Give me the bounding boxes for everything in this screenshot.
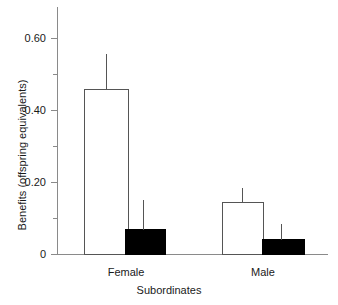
errorbar-male-filled <box>281 224 282 240</box>
y-tick-0.40 <box>51 110 57 111</box>
y-tick-label-0: 0 <box>40 249 46 260</box>
y-tick-0 <box>51 254 57 255</box>
x-category-label-male: Male <box>223 266 303 278</box>
bar-chart-figure: 0.60 0.40 0.20 0 Female Male Subordinate… <box>0 0 338 305</box>
bar-male-filled <box>262 239 305 255</box>
bar-female-filled <box>125 229 166 255</box>
bar-male-open <box>222 202 264 255</box>
y-tick-minor-0.50 <box>53 74 57 75</box>
y-tick-label-0.60: 0.60 <box>25 33 46 44</box>
errorbar-female-open <box>106 54 107 90</box>
y-axis-line <box>57 7 58 255</box>
errorbar-female-filled <box>143 200 144 230</box>
y-axis-title: Benefits (offspring equivalents) <box>16 55 28 255</box>
y-tick-0.60 <box>51 38 57 39</box>
errorbar-male-open <box>242 188 243 203</box>
bar-female-open <box>84 89 129 255</box>
y-tick-minor-0.10 <box>53 218 57 219</box>
x-category-label-female: Female <box>86 266 166 278</box>
y-tick-0.20 <box>51 182 57 183</box>
x-axis-title: Subordinates <box>0 284 338 296</box>
y-tick-minor-0.30 <box>53 146 57 147</box>
